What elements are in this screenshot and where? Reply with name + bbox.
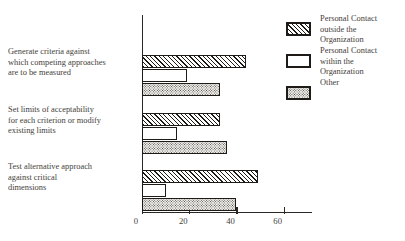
x-tick-60 — [284, 207, 285, 214]
chart-legend: Personal Contact outside the Organizatio… — [286, 14, 404, 110]
bar-g0-s0 — [142, 55, 246, 68]
bar-g0-s1 — [142, 69, 187, 82]
category-label-0: Generate criteria against which competin… — [8, 47, 142, 79]
legend-label-2: Other — [320, 78, 404, 89]
category-label-2: Test alternative approach against critic… — [8, 162, 142, 194]
category-label-1: Set limits of acceptability for each cri… — [8, 105, 142, 137]
x-tick-40 — [236, 207, 237, 214]
bar-g2-s0 — [142, 170, 258, 183]
legend-label-0: Personal Contact outside the Organizatio… — [320, 14, 404, 46]
x-tick-label-20: 20 — [159, 216, 195, 226]
legend-swatch-white-icon — [286, 54, 311, 68]
bar-chart-figure: Generate criteria against which competin… — [0, 0, 405, 241]
legend-item-0[interactable]: Personal Contact outside the Organizatio… — [286, 14, 404, 40]
legend-item-2[interactable]: Other — [286, 78, 404, 104]
bar-g1-s2 — [142, 141, 227, 154]
bar-g2-s2 — [142, 198, 236, 211]
legend-swatch-hatch-icon — [286, 22, 311, 36]
legend-swatch-dots-icon — [286, 86, 311, 100]
bar-g1-s1 — [142, 127, 177, 140]
x-axis-line — [142, 212, 312, 213]
x-tick-label-40: 40 — [206, 216, 242, 226]
legend-item-1[interactable]: Personal Contact within the Organization — [286, 46, 404, 72]
x-tick-label-0: 0 — [112, 216, 148, 226]
legend-label-1: Personal Contact within the Organization — [320, 46, 404, 78]
bar-g0-s2 — [142, 83, 220, 96]
x-tick-label-60: 60 — [254, 216, 290, 226]
bar-g1-s0 — [142, 113, 220, 126]
bar-g2-s1 — [142, 184, 166, 197]
